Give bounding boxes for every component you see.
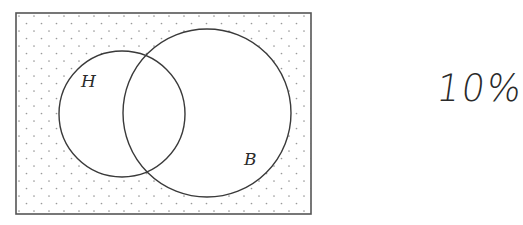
set-b-label: B bbox=[243, 149, 257, 169]
handwritten-percentage-annotation: 10% bbox=[434, 66, 523, 109]
set-h-label: H bbox=[80, 71, 97, 91]
